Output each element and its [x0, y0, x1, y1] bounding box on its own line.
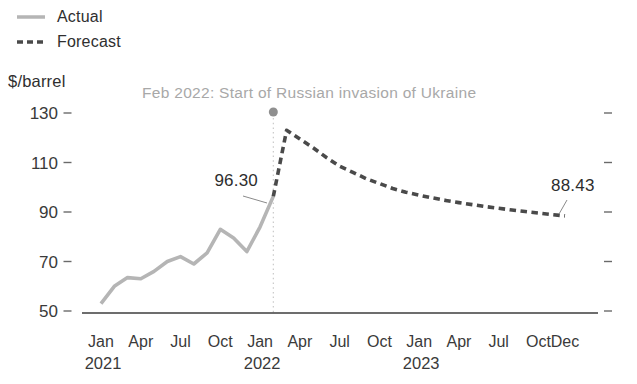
- forecast-line-swatch: [16, 38, 46, 46]
- x-tick-label: Jul: [488, 333, 508, 350]
- forecast-line: [273, 130, 565, 216]
- x-tick-label: Jan: [88, 333, 114, 350]
- event-dot: [269, 108, 278, 117]
- actual-end-value-label: 96.30: [198, 171, 258, 191]
- chart-canvas: 507090110130JanAprJulOctJanAprJulOctJanA…: [0, 0, 637, 384]
- y-tick-label: 110: [31, 154, 58, 173]
- actual-end-label-connector: [243, 196, 267, 203]
- forecast-end-label-connector: [559, 200, 567, 214]
- legend-item-actual: Actual: [16, 7, 121, 27]
- actual-line-swatch: [16, 13, 46, 21]
- event-annotation-text: Feb 2022: Start of Russian invasion of U…: [142, 84, 476, 102]
- x-tick-label: Jan: [247, 333, 273, 350]
- x-tick-label: Jul: [329, 333, 349, 350]
- x-tick-label: Oct: [526, 333, 551, 350]
- y-tick-label: 90: [39, 203, 58, 222]
- x-tick-label: Dec: [551, 333, 579, 350]
- x-year-label: 2022: [244, 354, 281, 372]
- x-tick-label: Apr: [446, 333, 472, 350]
- actual-line: [101, 196, 273, 303]
- x-year-label: 2021: [85, 354, 122, 372]
- legend-label-forecast: Forecast: [57, 33, 121, 51]
- x-tick-label: Apr: [128, 333, 154, 350]
- y-tick-label: 70: [39, 253, 58, 272]
- x-year-label: 2023: [403, 354, 440, 372]
- x-tick-label: Apr: [287, 333, 313, 350]
- chart-legend: Actual Forecast: [16, 7, 121, 52]
- legend-item-forecast: Forecast: [16, 32, 121, 52]
- price-chart: 507090110130JanAprJulOctJanAprJulOctJanA…: [0, 0, 637, 384]
- y-tick-label: 130: [30, 104, 58, 123]
- x-tick-label: Oct: [208, 333, 233, 350]
- y-axis-unit-label: $/barrel: [8, 72, 66, 91]
- x-tick-label: Jan: [406, 333, 432, 350]
- x-tick-label: Jul: [170, 333, 190, 350]
- x-tick-label: Oct: [367, 333, 392, 350]
- legend-label-actual: Actual: [57, 8, 103, 26]
- forecast-end-value-label: 88.43: [551, 176, 595, 196]
- y-tick-label: 50: [39, 302, 58, 321]
